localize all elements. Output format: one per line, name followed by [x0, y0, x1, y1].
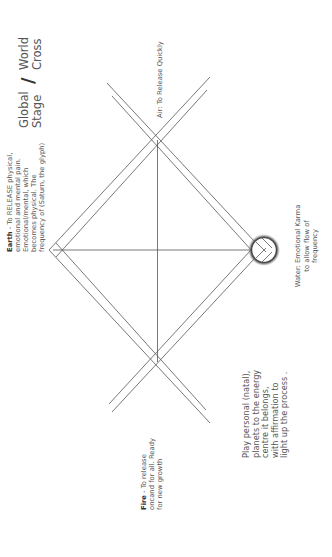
double-line-upper-right: [107, 83, 268, 262]
title-global: Global: [17, 91, 31, 128]
fire-label: Fire - To release oncand for all. Ready …: [140, 438, 164, 510]
title-stage: Stage: [30, 95, 44, 128]
earth-label: Earth - To RELEASE physical, emotional a…: [6, 143, 46, 252]
fire-label-title: Fire: [140, 495, 148, 510]
diagram-title: Global World Stage Cross /: [18, 28, 48, 128]
water-label: Water: Emotional Karma to allow flow of …: [294, 194, 320, 298]
earth-label-title: Earth: [6, 231, 14, 252]
title-slash: /: [21, 77, 34, 84]
air-label: Air: To Release Quickly: [156, 41, 164, 118]
title-cross: Cross: [31, 38, 44, 70]
play-instructions-label: Play personal (natal), planets to the en…: [242, 370, 290, 458]
world-cross-diagram: [0, 0, 332, 557]
double-line-upper-left: [49, 77, 210, 257]
